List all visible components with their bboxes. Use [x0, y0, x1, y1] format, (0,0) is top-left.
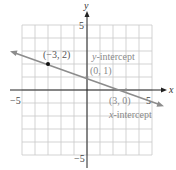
point-label-3-0: (3, 0): [109, 95, 131, 107]
x-min-tick-label: −5: [10, 95, 21, 106]
point-neg3-2: [46, 62, 50, 66]
y-min-tick-label: −5: [74, 153, 85, 164]
y-max-tick-label: 5: [79, 20, 84, 31]
line-arrow-left-icon: [10, 51, 18, 57]
axes: [10, 11, 167, 168]
x-axis-label: x: [168, 84, 174, 95]
point-label-0-1: (0, 1): [90, 65, 112, 77]
coordinate-plane: x y −5 5 5 −5 (−3, 2) (0, 1) (3, 0) y-in…: [0, 0, 176, 170]
y-axis-label: y: [83, 0, 89, 11]
line-arrow-right-icon: [157, 101, 165, 107]
point-0-1: [86, 76, 89, 79]
x-intercept-annotation: x-intercept: [108, 109, 152, 120]
point-3-0: [125, 89, 128, 92]
y-axis-arrow-icon: [85, 11, 90, 17]
point-label-neg3-2: (−3, 2): [43, 49, 70, 61]
x-axis-arrow-icon: [161, 88, 167, 93]
y-intercept-annotation: y-intercept: [91, 51, 135, 62]
